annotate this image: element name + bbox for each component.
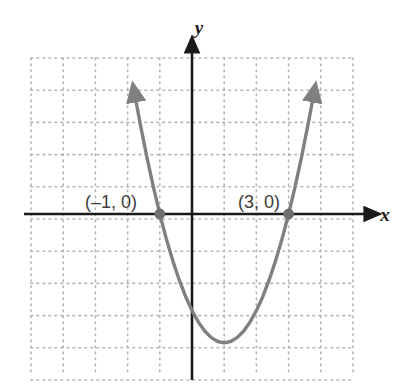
intercept-point [283, 209, 294, 220]
intercept-point [154, 209, 165, 220]
axes [24, 51, 366, 380]
right-intercept-label: (3, 0) [238, 192, 280, 212]
graph-canvas: y x (–1, 0) (3, 0) [0, 0, 407, 389]
parabola-figure: y x (–1, 0) (3, 0) [0, 0, 407, 389]
x-axis-label: x [379, 204, 390, 225]
left-intercept-label: (–1, 0) [85, 192, 137, 212]
y-axis-label: y [193, 17, 204, 38]
